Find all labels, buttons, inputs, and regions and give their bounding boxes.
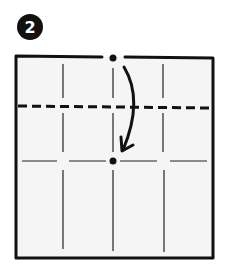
step-number-badge: 2 (17, 14, 43, 40)
origami-diagram: 2 (0, 0, 229, 270)
center-point (110, 158, 117, 165)
step-number: 2 (24, 18, 35, 37)
paper-square (16, 56, 213, 258)
top-center-point (110, 55, 117, 62)
